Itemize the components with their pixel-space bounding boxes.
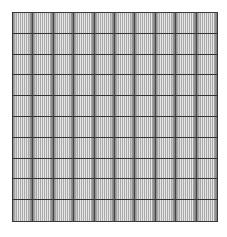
grid-cell	[135, 34, 155, 55]
grid-cell	[197, 34, 217, 55]
grid-cell	[135, 13, 155, 34]
grid-cell	[115, 13, 135, 34]
grid-cell	[54, 159, 74, 180]
grid-cell	[176, 75, 196, 96]
grid-cell	[156, 117, 176, 138]
grid-cell	[74, 159, 94, 180]
grid-cell	[135, 55, 155, 76]
grid-cell	[135, 200, 155, 221]
grid-cell	[115, 117, 135, 138]
grid-cell	[13, 55, 33, 76]
grid-cell	[95, 159, 115, 180]
grid-cell	[54, 138, 74, 159]
grid-cell	[95, 138, 115, 159]
grid-cell	[115, 159, 135, 180]
grid-cell	[176, 34, 196, 55]
grid-cell	[156, 138, 176, 159]
grid-cell	[95, 13, 115, 34]
grid-cell	[13, 75, 33, 96]
grid-cell	[54, 13, 74, 34]
grid-cell	[176, 55, 196, 76]
grid-cell	[156, 75, 176, 96]
grid-cell	[176, 179, 196, 200]
grid-cell	[95, 200, 115, 221]
grid-cell	[33, 96, 53, 117]
grid-cell	[33, 159, 53, 180]
grid-cell	[135, 159, 155, 180]
grid-cell	[176, 159, 196, 180]
grid-cell	[176, 138, 196, 159]
grid-cell	[33, 55, 53, 76]
grid-cell	[33, 200, 53, 221]
grid-cell	[54, 117, 74, 138]
grid-cell	[176, 117, 196, 138]
grid-cell	[74, 200, 94, 221]
grid-cell	[176, 200, 196, 221]
grid-cell	[13, 96, 33, 117]
grid-cell	[197, 200, 217, 221]
grid-cell	[156, 200, 176, 221]
grid-cell	[115, 55, 135, 76]
grid-cell	[74, 75, 94, 96]
grid-cell	[74, 138, 94, 159]
striped-grid	[12, 12, 218, 222]
grid-cell	[135, 117, 155, 138]
grid-cell	[13, 34, 33, 55]
grid-cell	[74, 96, 94, 117]
grid-cell	[33, 34, 53, 55]
grid-cell	[176, 96, 196, 117]
grid-cell	[95, 179, 115, 200]
grid-cell	[115, 96, 135, 117]
grid-cell	[74, 179, 94, 200]
grid-cell	[95, 96, 115, 117]
grid-cell	[115, 75, 135, 96]
grid-cell	[33, 138, 53, 159]
grid-cell	[156, 179, 176, 200]
grid-cell	[135, 75, 155, 96]
grid-cell	[74, 117, 94, 138]
grid-cell	[13, 159, 33, 180]
grid-cell	[54, 34, 74, 55]
grid-cell	[74, 34, 94, 55]
grid-cell	[197, 117, 217, 138]
grid-cell	[197, 159, 217, 180]
grid-cell	[156, 34, 176, 55]
grid-cell	[13, 117, 33, 138]
grid-cell	[176, 13, 196, 34]
grid-cell	[95, 55, 115, 76]
grid-cell	[197, 55, 217, 76]
grid-cell	[197, 138, 217, 159]
grid-cell	[54, 200, 74, 221]
grid-cell	[197, 75, 217, 96]
grid-cell	[74, 13, 94, 34]
grid-cell	[54, 179, 74, 200]
grid-cell	[13, 200, 33, 221]
grid-cell	[156, 13, 176, 34]
grid-cell	[33, 117, 53, 138]
grid-cell	[156, 96, 176, 117]
grid-cell	[135, 96, 155, 117]
grid-cell	[197, 96, 217, 117]
grid-cell	[95, 34, 115, 55]
grid-cell	[33, 179, 53, 200]
grid-cell	[135, 179, 155, 200]
grid-cell	[115, 138, 135, 159]
grid-cell	[74, 55, 94, 76]
grid-cell	[54, 75, 74, 96]
grid-cell	[95, 75, 115, 96]
grid-cell	[33, 75, 53, 96]
grid-cell	[197, 13, 217, 34]
grid-cell	[13, 138, 33, 159]
grid-cell	[54, 55, 74, 76]
grid-cell	[115, 200, 135, 221]
grid-cell	[33, 13, 53, 34]
grid-cell	[115, 179, 135, 200]
grid-cell	[197, 179, 217, 200]
grid-cell	[13, 179, 33, 200]
grid-cell	[54, 96, 74, 117]
grid-cell	[135, 138, 155, 159]
grid-cell	[156, 159, 176, 180]
grid-cell	[156, 55, 176, 76]
grid-cell	[115, 34, 135, 55]
grid-cell	[13, 13, 33, 34]
